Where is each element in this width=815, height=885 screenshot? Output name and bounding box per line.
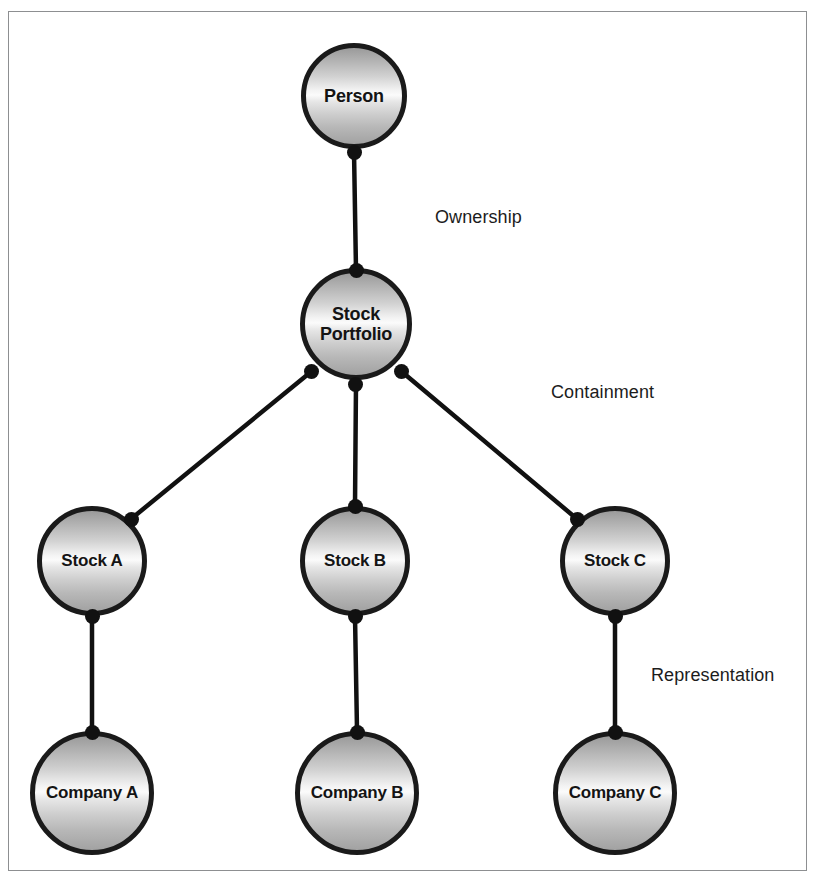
relationship-label-containment: Containment (551, 382, 654, 403)
node-company-b[interactable]: Company B (295, 731, 419, 855)
connector-dot-stock-c-bottom (608, 609, 623, 624)
connector-dot-portfolio-bottom-left (304, 364, 319, 379)
connector-dot-portfolio-bottom-right (394, 364, 409, 379)
connector-dot-company-a-top (85, 725, 100, 740)
node-company-a[interactable]: Company A (30, 731, 154, 855)
edge-stock-b-company-b (355, 616, 357, 730)
edge-person-portfolio (354, 151, 356, 270)
connector-dot-stock-a-top-right (124, 512, 139, 527)
node-stock-portfolio-label: Stock Portfolio (316, 304, 396, 344)
connector-dot-stock-b-bottom (348, 609, 363, 624)
connector-dot-portfolio-top (349, 263, 364, 278)
diagram-canvas: Person Stock Portfolio Stock A Stock B S… (0, 0, 815, 885)
edge-portfolio-stock-b (355, 383, 356, 505)
connector-dot-stock-c-top-left (570, 512, 585, 527)
node-stock-c-label: Stock C (580, 551, 650, 570)
connector-dot-stock-a-bottom (85, 609, 100, 624)
edge-portfolio-stock-a (131, 371, 312, 519)
node-stock-b-label: Stock B (320, 551, 390, 570)
node-stock-portfolio[interactable]: Stock Portfolio (300, 268, 412, 380)
connector-dot-company-b-top (350, 725, 365, 740)
node-stock-a-label: Stock A (57, 551, 126, 570)
node-company-c[interactable]: Company C (553, 731, 677, 855)
connector-dot-person-bottom (347, 145, 362, 160)
node-person-label: Person (320, 86, 388, 106)
node-company-c-label: Company C (565, 783, 666, 802)
connector-dot-company-c-top (608, 725, 623, 740)
node-company-b-label: Company B (307, 783, 408, 802)
relationship-label-representation: Representation (651, 665, 774, 686)
connector-dot-stock-b-top (348, 499, 363, 514)
node-stock-portfolio-label-line1: Stock (332, 304, 380, 324)
node-stock-b[interactable]: Stock B (300, 506, 410, 616)
connector-dot-portfolio-bottom-center (348, 377, 363, 392)
node-stock-portfolio-label-line2: Portfolio (320, 324, 392, 344)
node-person[interactable]: Person (301, 43, 407, 149)
relationship-label-ownership: Ownership (435, 207, 522, 228)
node-company-a-label: Company A (42, 783, 142, 802)
